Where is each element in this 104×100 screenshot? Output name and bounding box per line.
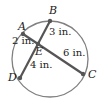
label-a: A bbox=[17, 20, 26, 33]
label-c: C bbox=[88, 68, 97, 81]
measure-ed: 4 in. bbox=[30, 59, 52, 70]
label-e: E bbox=[34, 45, 43, 58]
point-d bbox=[18, 76, 22, 80]
label-b: B bbox=[48, 4, 57, 17]
measure-ae: 2 in. bbox=[12, 35, 34, 46]
point-b bbox=[48, 19, 52, 23]
point-c bbox=[81, 72, 85, 76]
label-d: D bbox=[7, 71, 17, 84]
measure-be: 3 in. bbox=[49, 26, 71, 37]
intersecting-chords-diagram: A B C D E 2 in. 3 in. 6 in. 4 in. bbox=[0, 0, 104, 100]
measure-ec: 6 in. bbox=[63, 47, 85, 58]
